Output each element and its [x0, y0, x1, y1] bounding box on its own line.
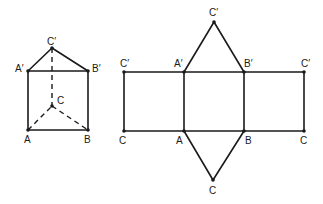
hidden-edge-c-b	[52, 106, 88, 130]
label-a-bottom: A	[24, 134, 31, 145]
label-b-bottom: B	[84, 134, 91, 145]
net-vertex-b-top	[242, 70, 246, 74]
net-label-a-top: A′	[174, 58, 183, 69]
net-label-b-top: B′	[244, 58, 253, 69]
net-vertex-left-bottom	[122, 129, 126, 133]
vertex-c-bottom	[50, 104, 54, 108]
triangular-prism: C′ A′ B′ C A B	[15, 36, 101, 145]
net-bottom-triangle-left	[184, 131, 213, 180]
net-label-apex-bottom: C	[209, 185, 216, 196]
net-vertex-right-bottom	[302, 129, 306, 133]
net-bottom-triangle-right	[213, 131, 244, 180]
edge-a-top-c-top	[28, 48, 52, 71]
hidden-edge-a-c	[28, 106, 52, 130]
net-vertex-left-top	[122, 70, 126, 74]
label-b-top: B′	[92, 63, 101, 74]
net-label-left-top: C′	[120, 58, 129, 69]
prism-and-net-diagram: C′ A′ B′ C A B C′ C′ A′ B′	[0, 0, 323, 204]
net-vertex-apex-top	[212, 20, 216, 24]
net-label-left-bottom: C	[119, 135, 126, 146]
vertex-b-bottom	[86, 128, 90, 132]
prism-net: C′ C′ A′ B′ C′ C A B C C	[119, 7, 310, 196]
label-c-bottom: C	[57, 95, 64, 106]
net-vertex-apex-bottom	[211, 178, 215, 182]
vertex-a-top	[26, 69, 30, 73]
edge-c-top-b-top	[52, 48, 88, 71]
net-vertex-a-top	[182, 70, 186, 74]
net-top-triangle-left	[184, 22, 214, 72]
net-top-triangle-right	[214, 22, 244, 72]
vertex-a-bottom	[26, 128, 30, 132]
label-c-top: C′	[47, 36, 56, 47]
vertex-b-top	[86, 69, 90, 73]
net-label-right-bottom: C	[300, 135, 307, 146]
net-vertex-b-bottom	[242, 129, 246, 133]
net-vertex-right-top	[302, 70, 306, 74]
net-label-b-bottom: B	[245, 135, 252, 146]
label-a-top: A′	[15, 63, 24, 74]
net-label-a-bottom: A	[176, 135, 183, 146]
net-label-apex-top: C′	[209, 7, 218, 18]
net-vertex-a-bottom	[182, 129, 186, 133]
net-label-right-top: C′	[301, 58, 310, 69]
